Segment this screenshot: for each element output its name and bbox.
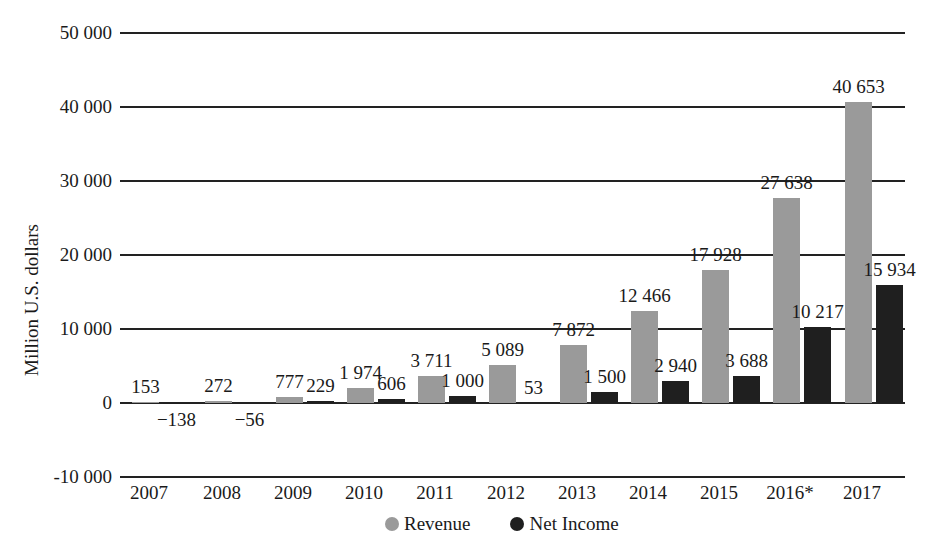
net-income-bar-value-label: 15 934 (863, 259, 915, 281)
revenue-bar-value-label: 12 466 (618, 285, 670, 307)
revenue-bar-value-label: 777 (275, 371, 304, 393)
y-tick-label: -10 000 (53, 466, 112, 488)
revenue-bar-value-label: 17 928 (689, 244, 741, 266)
net-income-bar-value-label: −138 (157, 409, 196, 431)
legend-label: Revenue (404, 513, 470, 535)
gridline (120, 32, 905, 34)
revenue-bar-value-label: 153 (131, 376, 160, 398)
revenue-bar (347, 388, 374, 403)
x-tick-label: 2015 (700, 482, 738, 504)
revenue-bar-value-label: 5 089 (481, 339, 524, 361)
x-tick-label: 2010 (345, 482, 383, 504)
y-axis-label: Million U.S. dollars (21, 224, 43, 376)
gridline (120, 476, 905, 478)
y-tick-label: 10 000 (60, 318, 112, 340)
revenue-bar-value-label: 40 653 (832, 76, 884, 98)
legend-item-net-income: Net Income (510, 513, 618, 535)
x-tick-label: 2013 (558, 482, 596, 504)
net-income-bar (307, 401, 334, 403)
revenue-bar-value-label: 3 711 (410, 350, 452, 372)
net-income-bar (378, 399, 405, 403)
net-income-swatch-icon (510, 517, 524, 531)
net-income-bar-value-label: 229 (306, 375, 335, 397)
revenue-bar (489, 365, 516, 403)
net-income-bar (662, 381, 689, 403)
revenue-bar (845, 102, 872, 403)
y-tick-label: 0 (103, 392, 113, 414)
x-tick-label: 2011 (416, 482, 453, 504)
x-tick-label: 2012 (487, 482, 525, 504)
revenue-bar (205, 401, 232, 403)
legend: Revenue Net Income (385, 513, 653, 535)
revenue-bar-value-label: 272 (204, 375, 233, 397)
y-tick-label: 40 000 (60, 96, 112, 118)
net-income-bar (876, 285, 903, 403)
net-income-bar-value-label: 10 217 (791, 301, 843, 323)
revenue-bar (702, 270, 729, 403)
gridline (120, 106, 905, 108)
x-tick-label: 2016* (766, 482, 814, 504)
net-income-bar-value-label: 1 500 (583, 366, 626, 388)
x-tick-label: 2007 (130, 482, 168, 504)
net-income-bar-value-label: 606 (377, 373, 406, 395)
x-tick-label: 2009 (274, 482, 312, 504)
y-tick-label: 20 000 (60, 244, 112, 266)
revenue-bar (276, 397, 303, 403)
x-tick-label: 2017 (843, 482, 881, 504)
revenue-swatch-icon (385, 517, 399, 531)
net-income-bar-value-label: 2 940 (654, 355, 697, 377)
revenue-bar (132, 402, 159, 403)
net-income-bar-value-label: −56 (235, 409, 265, 431)
net-income-bar (163, 403, 190, 404)
x-tick-label: 2008 (203, 482, 241, 504)
y-tick-label: 50 000 (60, 22, 112, 44)
legend-item-revenue: Revenue (385, 513, 470, 535)
net-income-bar-value-label: 3 688 (725, 350, 768, 372)
net-income-bar (591, 392, 618, 403)
legend-label: Net Income (529, 513, 618, 535)
revenue-bar-value-label: 1 974 (339, 362, 382, 384)
net-income-bar (804, 327, 831, 403)
net-income-bar (449, 396, 476, 403)
y-tick-label: 30 000 (60, 170, 112, 192)
revenue-bar-value-label: 27 638 (760, 172, 812, 194)
x-tick-label: 2014 (629, 482, 667, 504)
net-income-bar-value-label: 1 000 (441, 370, 484, 392)
bar-chart: Million U.S. dollars 50 00040 00030 0002… (0, 0, 946, 550)
net-income-bar-value-label: 53 (524, 377, 543, 399)
net-income-bar (733, 376, 760, 403)
revenue-bar-value-label: 7 872 (552, 319, 595, 341)
